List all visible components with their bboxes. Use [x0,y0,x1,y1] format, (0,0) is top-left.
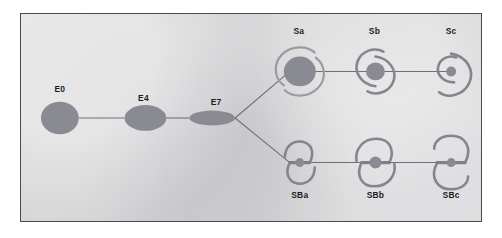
galaxy-sbc-label: SBc [443,190,460,200]
connector-fork-lower [235,118,290,163]
diagram-panel: E0 E4 E7 Sa [20,13,482,222]
barred-spiral-branch: SBa SBb SBc [285,136,468,200]
galaxy-e4-body [125,105,167,131]
tuning-fork-diagram: E0 E4 E7 Sa [21,14,481,221]
galaxy-sb-label: Sb [369,26,380,36]
galaxy-sbb[interactable]: SBb [356,139,394,200]
galaxy-e0-body [41,102,79,135]
galaxy-sc[interactable]: Sc [438,26,471,96]
galaxy-e4[interactable]: E4 [125,93,167,131]
galaxy-sbc-nucleus [447,158,456,167]
spiral-branch: Sa Sb Sc [276,26,471,96]
galaxy-sa-bulge [284,57,316,87]
galaxy-sba[interactable]: SBa [285,141,315,200]
figure-root: E0 E4 E7 Sa [0,0,502,238]
galaxy-sbc[interactable]: SBc [434,136,468,200]
galaxy-sba-label: SBa [291,190,308,200]
galaxy-sb-bulge [366,63,385,81]
galaxy-sc-nucleus [446,66,456,76]
connector-fork-upper [235,71,290,118]
galaxy-sbb-label: SBb [367,190,385,200]
galaxy-sc-label: Sc [446,26,457,36]
galaxy-sa[interactable]: Sa [276,26,324,96]
galaxy-sba-nucleus [295,158,304,167]
galaxy-sa-label: Sa [293,26,304,36]
galaxy-sbb-nucleus [369,157,381,169]
galaxy-e7[interactable]: E7 [189,97,235,125]
galaxy-e0-label: E0 [54,84,65,94]
galaxy-e0[interactable]: E0 [41,84,79,134]
galaxy-e4-label: E4 [138,93,149,103]
galaxy-sb[interactable]: Sb [357,26,395,94]
galaxy-e7-label: E7 [211,97,222,107]
elliptical-branch: E0 E4 E7 [41,84,235,134]
galaxy-e7-body [189,111,235,126]
